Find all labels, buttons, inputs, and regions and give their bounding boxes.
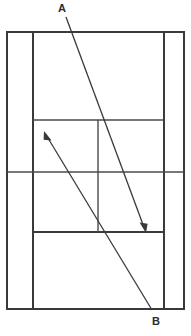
arrow-a	[66, 17, 148, 233]
tennis-court-diagram: A B	[0, 0, 191, 336]
arrow-b-label: B	[152, 316, 160, 327]
court-svg	[0, 0, 191, 336]
arrow-b-head	[44, 131, 52, 141]
arrow-b-shaft	[46, 134, 153, 310]
arrow-a-label: A	[58, 3, 66, 14]
arrow-a-shaft	[66, 17, 145, 230]
court-lines	[6, 32, 185, 309]
